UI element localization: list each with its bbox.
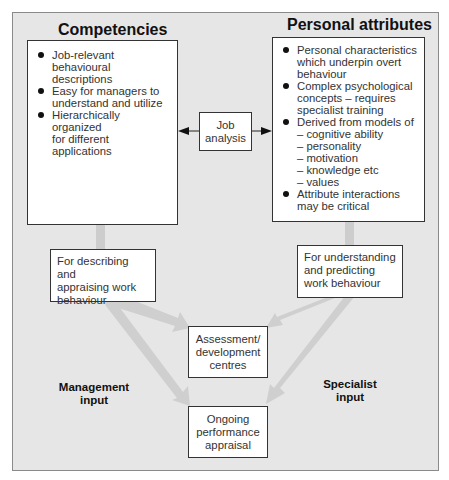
- bullet-icon: [283, 83, 289, 89]
- arrow-job-to-competencies: [178, 127, 199, 135]
- job-analysis-box: Job analysis: [199, 112, 252, 151]
- arrow-job-to-attributes: [252, 127, 272, 135]
- personal-attributes-title: Personal attributes: [287, 16, 432, 34]
- bullet-icon: [38, 112, 44, 118]
- attribute-bullet: Attribute interactions may be critical: [281, 188, 418, 212]
- competencies-box: Job-relevant behavioural descriptions Ea…: [27, 40, 178, 225]
- personal-attributes-box: Personal characteristics which underpin …: [272, 37, 425, 222]
- competency-bullet: Easy for managers to understand and util…: [36, 85, 171, 109]
- bullet-icon: [38, 52, 44, 58]
- left-connector-shaft: [96, 225, 105, 249]
- attributes-list: Personal characteristics which underpin …: [281, 44, 418, 212]
- attribute-bullet: Personal characteristics which underpin …: [281, 44, 418, 80]
- competency-bullet: Job-relevant behavioural descriptions: [36, 49, 171, 85]
- specialist-input-label: Specialist input: [318, 378, 382, 404]
- right-connector-shaft: [345, 222, 354, 245]
- management-input-label: Management input: [52, 381, 136, 407]
- bullet-icon: [283, 119, 289, 125]
- attribute-bullet: Complex psychological concepts – require…: [281, 80, 418, 116]
- competency-bullet: Hierarchically organized for different a…: [36, 109, 171, 157]
- assessment-centres-box: Assessment/ development centres: [188, 326, 268, 378]
- describing-box: For describing and appraising work behav…: [50, 249, 156, 302]
- ongoing-appraisal-box: Ongoing performance appraisal: [188, 406, 268, 458]
- attribute-bullet: Derived from models of – cognitive abili…: [281, 116, 418, 188]
- understanding-box: For understanding and predicting work be…: [297, 245, 403, 298]
- bullet-icon: [38, 88, 44, 94]
- bullet-icon: [283, 191, 289, 197]
- competencies-title: Competencies: [58, 21, 167, 39]
- competencies-list: Job-relevant behavioural descriptions Ea…: [36, 49, 171, 157]
- bullet-icon: [283, 47, 289, 53]
